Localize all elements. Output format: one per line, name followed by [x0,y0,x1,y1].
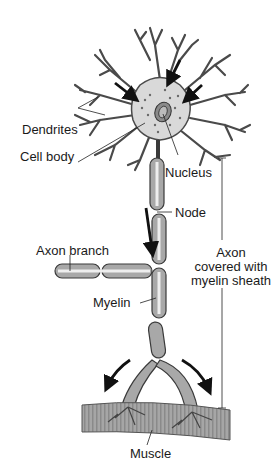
label-axon-sheath-line1: Axon [186,246,276,260]
neuron-diagram [0,0,276,470]
axon-branch [55,264,152,278]
label-axon-branch: Axon branch [36,244,109,258]
label-axon-sheath: Axon covered with myelin sheath [186,246,276,288]
label-axon-sheath-line2: covered with [186,260,276,274]
label-cell-body: Cell body [20,150,74,164]
muscle [82,402,230,440]
label-myelin: Myelin [93,296,131,310]
label-node: Node [175,206,206,220]
label-muscle: Muscle [130,447,171,461]
label-dendrites: Dendrites [22,123,78,137]
label-axon-sheath-line3: myelin sheath [186,274,276,288]
label-nucleus: Nucleus [165,166,212,180]
axon-main [148,140,167,359]
